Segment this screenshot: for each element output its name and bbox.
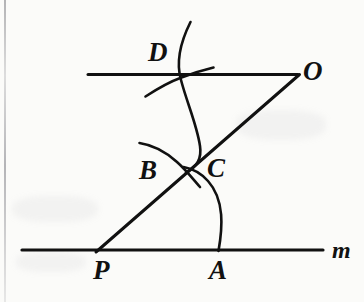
point-label-B: B [139,157,157,184]
geometry-figure [0,0,364,302]
point-label-C: C [207,155,225,182]
point-label-P: P [93,257,110,284]
arc-at-O [179,22,201,173]
point-label-O: O [303,58,323,85]
line-label-m: m [332,238,351,262]
point-label-D: D [148,39,168,66]
point-label-A: A [209,257,227,284]
diagram-canvas: D O B C P A m [0,0,364,302]
